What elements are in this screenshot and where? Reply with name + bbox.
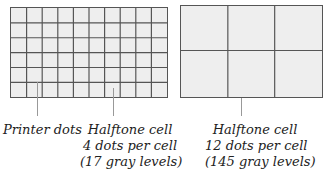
cell-large-line1: Halftone cell bbox=[205, 122, 305, 138]
grid-lines-fine bbox=[11, 8, 167, 97]
leader-line-large-cell bbox=[241, 98, 242, 116]
cell-small-line3: (17 gray levels) bbox=[80, 154, 180, 170]
printer-dot-grid bbox=[10, 7, 168, 98]
grid-lines-coarse bbox=[181, 6, 322, 97]
halftone-cell-grid bbox=[180, 5, 323, 98]
cell-large-line2: 12 dots per cell bbox=[205, 138, 305, 154]
cell-small-line2: 4 dots per cell bbox=[80, 138, 180, 154]
cell-small-line1: Halftone cell bbox=[80, 122, 180, 138]
label-halftone-cell-large: Halftone cell 12 dots per cell (145 gray… bbox=[205, 122, 305, 170]
printer-dots-text: Printer dots bbox=[3, 122, 82, 137]
leader-line-printer-dots bbox=[37, 82, 38, 116]
label-printer-dots: Printer dots bbox=[3, 122, 79, 138]
leader-line-small-cell bbox=[113, 88, 114, 116]
label-halftone-cell-small: Halftone cell 4 dots per cell (17 gray l… bbox=[80, 122, 180, 170]
cell-large-line3: (145 gray levels) bbox=[205, 154, 305, 170]
